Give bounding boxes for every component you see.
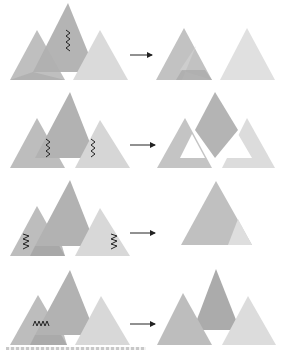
result-triangle-b bbox=[220, 28, 275, 80]
diagram-canvas bbox=[0, 0, 284, 354]
overlap-region bbox=[30, 335, 67, 345]
row-4-after bbox=[157, 269, 276, 345]
caption bbox=[6, 347, 146, 350]
overlap-region bbox=[30, 246, 65, 256]
row-2-after bbox=[157, 92, 275, 168]
row-1-after bbox=[156, 28, 275, 80]
result-center-triangle bbox=[193, 269, 240, 330]
row-2-before bbox=[10, 92, 130, 168]
row-1-before bbox=[10, 3, 128, 80]
row-3-before bbox=[10, 180, 130, 256]
row-4-before bbox=[10, 270, 130, 345]
row-3-after bbox=[181, 181, 252, 245]
